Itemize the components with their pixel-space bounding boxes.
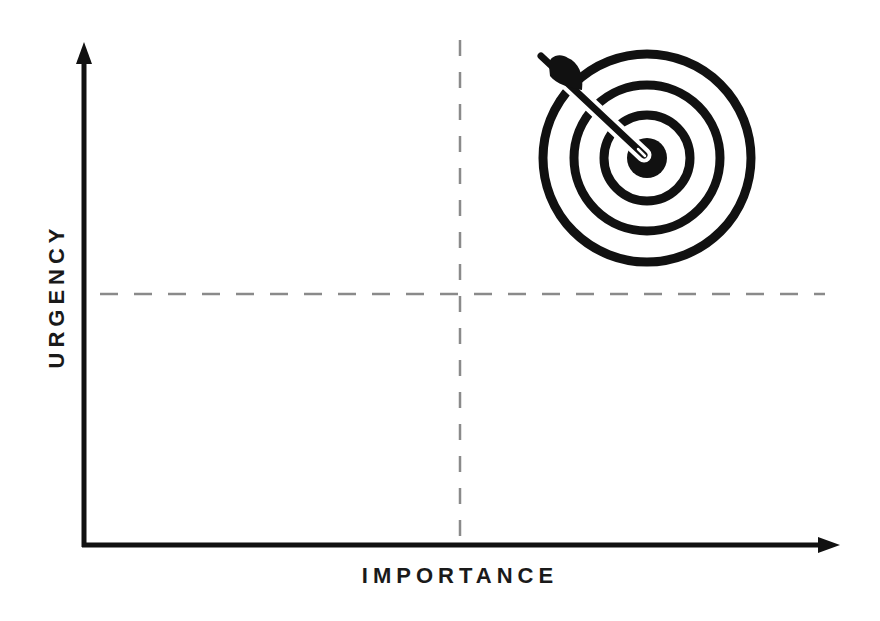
y-axis-arrow-icon [76,42,92,64]
y-axis-label: URGENCY [44,223,70,368]
quadrant-diagram [0,0,880,621]
y-axis [76,42,92,547]
x-axis-arrow-icon [818,537,840,553]
x-axis-label: IMPORTANCE [0,563,880,589]
target-icon [541,54,751,262]
x-axis [82,537,840,553]
